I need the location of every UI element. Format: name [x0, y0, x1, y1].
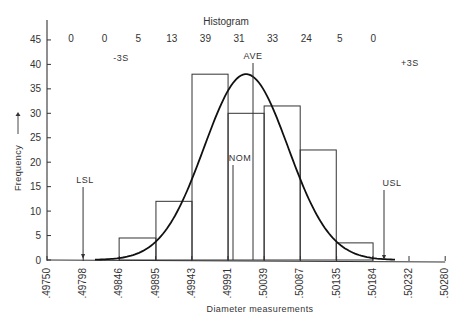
- minus-3s-label: -3S: [113, 53, 129, 63]
- histogram-count: 5: [135, 33, 141, 44]
- x-tick-label: .49750: [41, 268, 52, 299]
- x-tick-label: .50184: [367, 268, 378, 299]
- histogram-chart: 051015202530354045 .49750.49798.49846.49…: [0, 0, 457, 330]
- y-axis-arrow-icon: [16, 112, 21, 134]
- x-tick-label: .50135: [331, 268, 342, 299]
- x-tick-label: .49991: [222, 268, 233, 299]
- histogram-count: 24: [301, 33, 313, 44]
- y-tick-label: 20: [30, 157, 42, 168]
- chart-title: Histogram: [203, 16, 249, 27]
- y-axis-title: Frequency: [13, 145, 23, 191]
- y-tick-label: 30: [30, 108, 42, 119]
- histogram-count: 39: [200, 33, 212, 44]
- lsl-arrow-icon: [81, 254, 85, 259]
- x-axis: .49750.49798.49846.49895.49943.49991.500…: [41, 256, 450, 299]
- histogram-count: 13: [166, 33, 178, 44]
- nom-label: NOM: [229, 153, 252, 163]
- y-axis: 051015202530354045: [30, 20, 51, 266]
- x-tick-label: .50087: [294, 268, 305, 299]
- usl-label: USL: [382, 178, 401, 188]
- y-tick-label: 15: [30, 181, 42, 192]
- histogram-count: 0: [371, 33, 377, 44]
- y-tick-label: 10: [30, 206, 42, 217]
- histogram-count: 0: [68, 33, 74, 44]
- y-tick-label: 45: [30, 34, 42, 45]
- y-tick-label: 25: [30, 132, 42, 143]
- x-tick-label: .50039: [258, 268, 269, 299]
- histogram-count: 0: [102, 33, 108, 44]
- x-tick-label: .50280: [439, 268, 450, 299]
- y-tick-label: 40: [30, 59, 42, 70]
- histogram-bars: [119, 74, 373, 260]
- normal-distribution-curve: [95, 74, 395, 260]
- y-tick-label: 35: [30, 83, 42, 94]
- x-tick-label: .49846: [113, 268, 124, 299]
- y-tick-label: 5: [35, 230, 41, 241]
- y-tick-label: 0: [35, 255, 41, 266]
- x-axis-title: Diameter measurements: [207, 304, 314, 314]
- ave-label: AVE: [244, 51, 263, 61]
- normal-curve: [95, 74, 395, 260]
- histogram-bar: [300, 150, 336, 260]
- lsl-label: LSL: [76, 175, 94, 185]
- x-tick-label: .49943: [186, 268, 197, 299]
- x-tick-label: .49798: [77, 268, 88, 299]
- x-tick-label: .50232: [403, 268, 414, 299]
- histogram-count: 33: [267, 33, 279, 44]
- x-tick-label: .49895: [150, 268, 161, 299]
- histogram-bar: [156, 201, 192, 260]
- histogram-counts-row: 005133931332450: [68, 33, 376, 44]
- plus-3s-label: +3S: [401, 58, 419, 68]
- histogram-count: 31: [233, 33, 245, 44]
- histogram-count: 5: [337, 33, 343, 44]
